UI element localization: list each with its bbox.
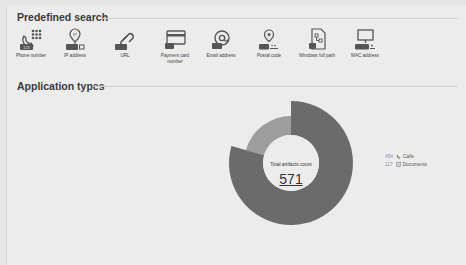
predefined-search-title: Predefined search	[17, 11, 108, 23]
svg-text:123: 123	[23, 45, 30, 50]
predefined-search-label: MAC address	[351, 53, 379, 59]
total-artifacts-count[interactable]: 571	[256, 171, 326, 187]
predefined-search-label: IP address	[64, 53, 86, 59]
predefined-search-url[interactable]: URL	[103, 28, 147, 59]
total-artifacts-label: Total artifacts count	[256, 162, 326, 167]
payment-card-icon	[162, 28, 188, 52]
legend-item-calls[interactable]: 454 Calls	[385, 152, 427, 160]
predefined-search-email-address[interactable]: Email address	[199, 28, 243, 59]
main-panel: Predefined search 123 Phone number IP	[6, 6, 466, 265]
chart-legend: 454 Calls 117 Documents	[385, 152, 427, 168]
phone-icon	[396, 154, 401, 159]
email-at-icon	[208, 28, 234, 52]
document-icon	[396, 162, 401, 167]
file-path-icon	[304, 28, 330, 52]
predefined-search-mac-address[interactable]: MAC address	[343, 28, 387, 59]
legend-count: 454	[385, 154, 393, 159]
predefined-search-phone-number[interactable]: 123 Phone number	[9, 28, 53, 59]
application-types-chart: Total artifacts count 571 454 Calls 117 …	[7, 92, 466, 265]
url-link-icon	[112, 28, 138, 52]
application-types-title: Application types	[17, 80, 105, 92]
ip-address-icon: IP	[62, 28, 88, 52]
predefined-search-windows-full-path[interactable]: Windows full path	[295, 28, 339, 59]
legend-label: Documents	[403, 162, 427, 167]
donut-chart	[7, 92, 466, 265]
predefined-search-label: Email address	[206, 53, 235, 59]
section-divider	[93, 86, 458, 87]
predefined-search-label: URL	[120, 53, 129, 59]
legend-count: 117	[385, 162, 393, 167]
predefined-search-ip-address[interactable]: IP IP address	[53, 28, 97, 59]
predefined-search-label: Phone number	[16, 53, 46, 59]
phone-icon: 123	[18, 28, 44, 52]
predefined-search-list: 123 Phone number IP IP address URL	[7, 28, 466, 76]
predefined-search-label: Windows full path	[299, 53, 335, 59]
predefined-search-label: Payment card number	[153, 53, 197, 65]
legend-item-documents[interactable]: 117 Documents	[385, 160, 427, 168]
map-pin-icon	[256, 28, 282, 52]
section-divider	[103, 18, 458, 19]
legend-label: Calls	[403, 154, 414, 159]
svg-text:IP: IP	[73, 32, 77, 37]
monitor-icon	[352, 28, 378, 52]
predefined-search-payment-card-number[interactable]: Payment card number	[153, 28, 197, 65]
predefined-search-label: Postal code	[257, 53, 281, 59]
predefined-search-postal-code[interactable]: Postal code	[247, 28, 291, 59]
